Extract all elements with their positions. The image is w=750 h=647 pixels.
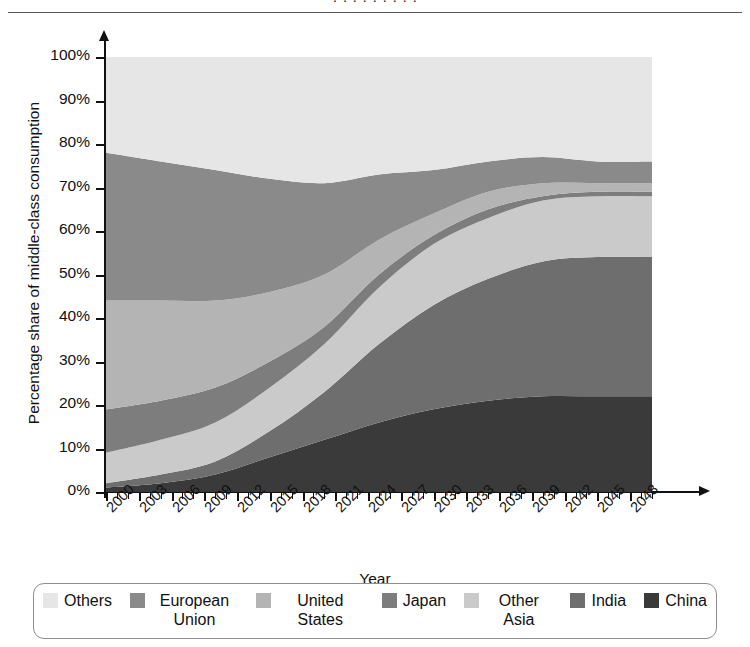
x-tick-2029 [423,492,424,499]
y-tick-mark [96,275,104,277]
area-series-svg [106,57,652,492]
x-tick-2031 [445,492,446,499]
legend-label: European Union [151,591,238,629]
legend-item-india[interactable]: India [570,591,626,610]
y-tick-label: 20% [59,394,90,412]
legend-label: United States [277,591,364,629]
legend-label: Others [64,591,112,610]
legend-item-european-union[interactable]: European Union [130,591,238,629]
x-tick-2023 [357,492,358,499]
x-tick-2014 [259,492,260,499]
plot-area [106,57,652,492]
x-tick-2016 [281,492,282,499]
y-tick-label: 50% [59,264,90,282]
y-tick-mark [96,231,104,233]
legend-item-china[interactable]: China [644,591,707,610]
y-tick-label: 70% [59,177,90,195]
y-tick-mark [96,188,104,190]
x-tick-2038 [521,492,522,499]
legend-label: Other Asia [485,591,552,629]
x-tick-2005 [161,492,162,499]
y-tick-label: 30% [59,351,90,369]
x-tick-2017 [292,492,293,499]
legend-swatch-icon [570,593,585,608]
x-tick-2019 [313,492,314,499]
x-tick-2043 [576,492,577,499]
legend-item-united-states[interactable]: United States [256,591,364,629]
x-tick-2010 [215,492,216,499]
legend-swatch-icon [464,593,479,608]
y-tick-mark [96,318,104,320]
y-tick-label: 40% [59,307,90,325]
stacked-area-chart: Percentage share of middle-class consump… [0,22,750,542]
x-tick-2035 [488,492,489,499]
legend-swatch-icon [644,593,659,608]
y-axis-title: Percentage share of middle-class consump… [25,33,43,493]
x-tick-2020 [324,492,325,499]
x-tick-2004 [150,492,151,499]
y-tick-mark [96,405,104,407]
x-tick-2050 [652,492,653,499]
x-tick-2011 [226,492,227,499]
x-tick-2008 [193,492,194,499]
x-tick-2028 [412,492,413,499]
legend-swatch-icon [130,593,145,608]
x-tick-2046 [608,492,609,499]
y-tick-mark [96,492,104,494]
x-tick-2047 [619,492,620,499]
y-tick-mark [96,362,104,364]
legend-item-other-asia[interactable]: Other Asia [464,591,552,629]
y-tick-mark [96,101,104,103]
x-tick-2002 [128,492,129,499]
chart-legend: OthersEuropean UnionUnited StatesJapanOt… [33,583,717,639]
legend-label: China [665,591,707,610]
x-tick-2013 [248,492,249,499]
x-axis-arrow [699,486,710,496]
header-divider [8,12,742,13]
y-tick-mark [96,144,104,146]
x-tick-2032 [455,492,456,499]
x-tick-2040 [543,492,544,499]
y-tick-label: 80% [59,133,90,151]
x-tick-2037 [510,492,511,499]
legend-swatch-icon [256,593,271,608]
x-tick-2034 [477,492,478,499]
legend-label: India [591,591,626,610]
legend-item-others[interactable]: Others [43,591,112,610]
y-tick-label: 90% [59,90,90,108]
x-tick-2022 [346,492,347,499]
y-tick-label: 100% [50,46,90,64]
x-tick-2025 [379,492,380,499]
x-tick-2007 [182,492,183,499]
clipped-header-text: · · · · · · · · · [0,0,750,3]
legend-swatch-icon [43,593,58,608]
legend-label: Japan [403,591,447,610]
x-tick-2026 [390,492,391,499]
x-tick-2049 [641,492,642,499]
x-tick-2041 [554,492,555,499]
legend-item-japan[interactable]: Japan [382,591,447,610]
y-tick-label: 10% [59,438,90,456]
y-tick-label: 60% [59,220,90,238]
legend-swatch-icon [382,593,397,608]
y-tick-label: 0% [68,481,90,499]
x-tick-2001 [117,492,118,499]
y-tick-mark [96,449,104,451]
x-tick-2044 [586,492,587,499]
y-tick-mark [96,57,104,59]
